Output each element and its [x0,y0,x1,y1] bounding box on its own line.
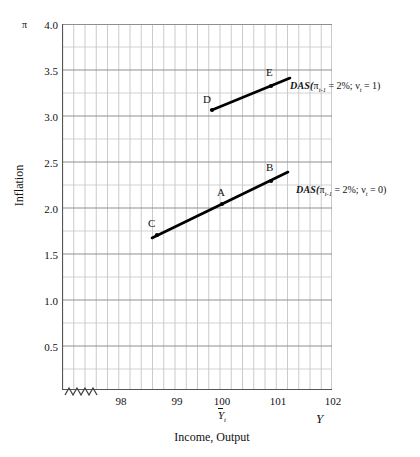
point-marker-C [155,233,159,237]
chart-root: π Inflation 4.0 3.5 3.0 2.5 2.0 1.5 1.0 … [0,0,420,457]
point-label-C: C [148,217,155,229]
das-shock-label-prefix: DAS( [290,80,314,91]
y-tick-2.0: 2.0 [12,204,58,215]
x-axis-title: Income, Output [122,430,302,445]
point-label-A: A [217,186,225,198]
point-marker-A [220,202,224,206]
y-tick-labels: 4.0 3.5 3.0 2.5 2.0 1.5 1.0 0.5 [0,0,58,457]
das-base-label-pi-eq: = 2%; [332,184,361,195]
point-marker-B [269,179,273,183]
y-tick-1.0: 1.0 [12,296,58,307]
das-base-label: DAS(πt-1 = 2%; νt = 0) [296,184,386,197]
x-tick-99: 99 [157,396,197,407]
point-marker-D [210,108,214,112]
point-marker-E [269,84,273,88]
das-shock-label-nu-eq: = 1) [361,80,380,91]
x-tick-98: 98 [101,396,141,407]
das-shock-line [212,78,290,110]
das-shock-label-pi-sub: t-1 [319,86,326,93]
x-tick-102: 102 [313,396,353,407]
natural-output-symbol: Yt [202,409,242,424]
y-tick-3.0: 3.0 [12,112,58,123]
y-tick-3.5: 3.5 [12,66,58,77]
point-label-E: E [266,66,273,78]
plot-area: D E C A B [62,24,332,390]
point-label-B: B [266,161,273,173]
plot-svg [62,24,332,390]
das-base-label-pi-sub: t-1 [325,190,332,197]
natural-output-letter: Y [218,409,224,421]
natural-output-subscript: t [224,416,226,424]
y-tick-2.5: 2.5 [12,158,58,169]
das-base-label-nu-eq: = 0) [367,184,386,195]
das-shock-label: DAS(πt-1 = 2%; νt = 1) [290,80,380,93]
point-label-D: D [203,93,211,105]
data-point-markers [155,84,273,237]
das-shock-label-pi-eq: = 2%; [326,80,355,91]
x-axis-symbol: Y [316,411,323,427]
axis-lines [62,24,332,390]
y-tick-0.5: 0.5 [12,342,58,353]
x-tick-100: 100 [202,396,242,407]
x-tick-101: 101 [258,396,298,407]
y-tick-4.0: 4.0 [12,20,58,31]
das-base-label-prefix: DAS( [296,184,320,195]
y-tick-1.5: 1.5 [12,250,58,261]
vertical-gridlines [63,24,332,390]
